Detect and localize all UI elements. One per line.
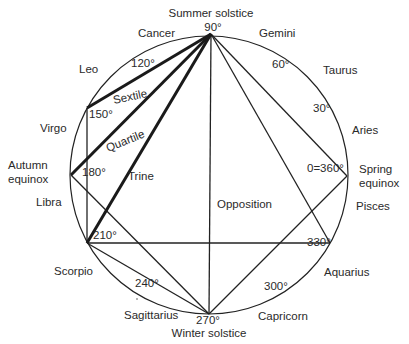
sign-taurus: Taurus [323, 64, 358, 76]
degree-330-label: 330° [307, 236, 331, 248]
sign-capricorn: Capricorn [258, 310, 308, 322]
degree-30-label: 30° [313, 102, 330, 114]
spring-equinox-label-line2: equinox [359, 177, 400, 189]
aspect-quartile-label: Quartile [104, 128, 146, 154]
degree-210-label: 210° [93, 229, 117, 241]
degree-90-label: 90° [204, 21, 221, 33]
line-180-270 [71, 175, 209, 314]
sign-cancer: Cancer [138, 27, 175, 39]
degree-120-label: 120° [131, 57, 155, 69]
aspect-opposition-label: Opposition [217, 198, 272, 210]
sign-aries: Aries [352, 124, 378, 136]
degree-300-label: 300° [264, 280, 288, 292]
thin-lines [71, 34, 347, 314]
autumn-equinox-label-line1: Autumn [8, 159, 48, 171]
zodiac-aspect-diagram: Summer solstice Winter solstice Autumn e… [0, 0, 409, 344]
spring-equinox-label-line1: Spring [359, 163, 392, 175]
sign-scorpio: Scorpio [54, 265, 93, 277]
winter-solstice-label: Winter solstice [172, 327, 247, 339]
sign-sagittarius: Sagittarius [124, 309, 179, 321]
degree-0-label: 0=360° [307, 162, 344, 174]
degree-150-label: 150° [89, 108, 113, 120]
autumn-equinox-label-line2: equinox [8, 173, 49, 185]
stray-dot [136, 298, 138, 300]
sign-libra: Libra [36, 196, 62, 208]
degree-270-label: 270° [196, 314, 220, 326]
line-90-270-opposition [209, 34, 211, 314]
sign-virgo: Virgo [40, 122, 67, 134]
degree-180-label: 180° [82, 166, 106, 178]
sign-aquarius: Aquarius [324, 266, 370, 278]
degree-60-label: 60° [272, 58, 289, 70]
degree-240-label: 240° [135, 277, 159, 289]
sign-gemini: Gemini [259, 27, 295, 39]
sign-leo: Leo [79, 63, 98, 75]
sign-pisces: Pisces [356, 200, 390, 212]
aspect-trine-label: Trine [128, 170, 154, 182]
summer-solstice-label: Summer solstice [169, 7, 254, 19]
